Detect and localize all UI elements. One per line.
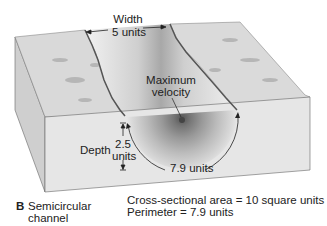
depth-label: Depth	[80, 144, 111, 156]
max-velocity-label-1: Maximum	[143, 74, 199, 86]
width-value: 5 units	[106, 26, 152, 38]
channel-block-diagram	[0, 0, 327, 226]
panel-title-1: Semicircular	[28, 200, 91, 212]
depth-unit: units	[112, 150, 136, 162]
max-velocity-label-2: velocity	[143, 86, 199, 98]
perimeter-text: Perimeter = 7.9 units	[127, 206, 233, 218]
depth-value: 2.5	[115, 138, 131, 150]
area-text: Cross-sectional area = 10 square units	[127, 194, 324, 206]
panel-letter: B	[16, 200, 24, 212]
panel-title-2: channel	[28, 212, 68, 224]
width-label: Width	[108, 13, 148, 25]
perimeter-arc-label: 7.9 units	[170, 162, 213, 174]
